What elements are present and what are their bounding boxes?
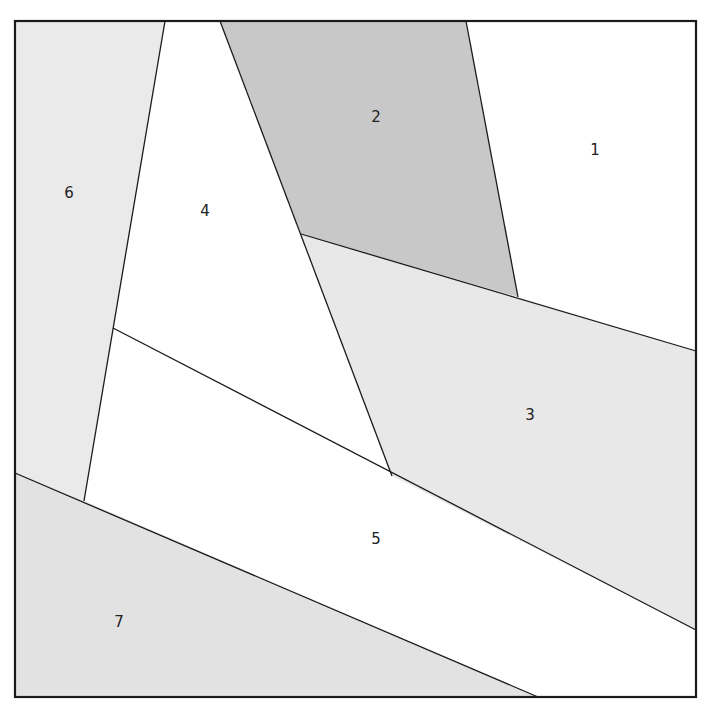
region-label-4: 4	[200, 202, 210, 220]
region-label-2: 2	[371, 108, 381, 126]
region-label-1: 1	[590, 141, 600, 159]
region-label-5: 5	[371, 530, 381, 548]
region-diagram: 1234567	[0, 0, 712, 715]
region-label-6: 6	[64, 184, 74, 202]
region-label-7: 7	[114, 613, 124, 631]
region-label-3: 3	[525, 406, 535, 424]
regions-layer	[15, 21, 696, 697]
